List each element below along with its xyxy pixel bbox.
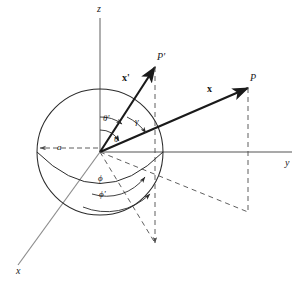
point-label-p: P [250,73,256,83]
figure-spherical-coordinates: z y x P' P x' x θ' γ θ ϕ ϕ' a [0,0,300,288]
angle-label-theta: θ [114,135,118,144]
dimension-label-radius: a [57,143,62,152]
ground-line-phi [100,152,248,212]
axis-label-x: x [16,266,20,276]
angle-label-gamma: γ [135,117,139,126]
point-label-p-prime: P' [157,52,165,62]
axis-label-z: z [97,4,101,14]
vector-x [100,88,248,152]
axis-label-y: y [285,158,289,168]
diagram-canvas [0,0,300,288]
vector-label-x: x [207,84,212,94]
angle-label-phi: ϕ [98,174,103,183]
angle-label-phi-prime: ϕ' [99,190,106,199]
angle-label-theta-prime: θ' [103,114,109,123]
vector-label-x-prime: x' [122,73,130,83]
angle-arc-phi-prime [83,194,150,212]
